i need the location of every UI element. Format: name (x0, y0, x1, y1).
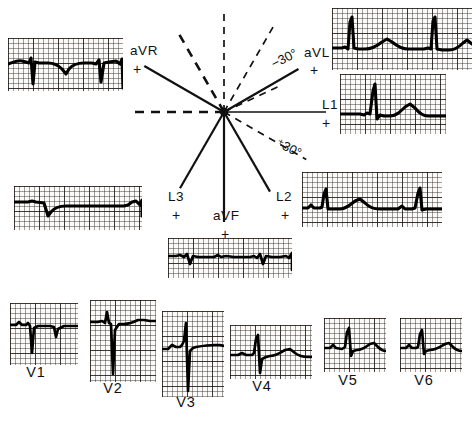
axis-ray-avl-positive (224, 69, 298, 112)
axis-polarity-plus-l1: + (322, 116, 331, 130)
ecg-trace-v2 (90, 300, 156, 382)
ecg-waveform-path-v1 (10, 322, 78, 353)
axis-polarity-plus-avr: + (133, 62, 142, 76)
ecg-trace-l3 (14, 186, 142, 230)
strip-label-v3: V3 (176, 395, 196, 410)
ecg-strip-v2 (90, 300, 156, 382)
axis-ray-lead-3-negative (224, 25, 274, 112)
ecg-trace-avf (168, 238, 292, 278)
axis-ray-lead-2-negative (177, 30, 225, 112)
ecg-strip-l2 (302, 172, 442, 227)
ecg-strip-l1 (340, 74, 446, 134)
ecg-strip-v4 (230, 325, 312, 379)
ecg-strip-avr (8, 38, 123, 91)
ecg-waveform-path-avf (168, 253, 292, 270)
ecg-strip-v1 (10, 303, 78, 365)
axis-label-l1: L1 (322, 98, 338, 112)
ecg-waveform-path-v4 (230, 335, 312, 373)
ecg-trace-avl (332, 8, 472, 70)
ecg-strip-v3 (162, 311, 224, 397)
ecg-waveform-path-l2 (302, 188, 442, 210)
ecg-trace-v3 (162, 311, 224, 397)
axis-polarity-plus-avl: + (310, 63, 319, 77)
strip-label-v2: V2 (103, 381, 123, 396)
axis-label-avr: aVR (130, 44, 158, 58)
axis-angle-label-minus-30-degrees: −30° (269, 46, 299, 70)
strip-label-v6: V6 (414, 373, 434, 388)
axis-label-avf: aVF (213, 209, 240, 223)
ecg-waveform-path-v5 (324, 328, 386, 356)
axis-label-l3: L3 (168, 190, 184, 204)
ecg-trace-v5 (324, 318, 386, 372)
ecg-trace-avr (8, 38, 123, 91)
axis-polarity-plus-avf: + (221, 227, 230, 241)
ecg-strip-l3 (14, 186, 142, 230)
ecg-hexaxial-figure: V1V2V3V4V5V6aVR+aVL+L1+L2+L3+aVF+−30°⁺30… (0, 0, 476, 426)
ecg-trace-v6 (400, 318, 462, 372)
axis-angle-label-plus-30-degrees: ⁺30° (274, 136, 304, 160)
axis-ray-lead-2-positive (224, 112, 270, 192)
ecg-waveform-path-avr (8, 58, 123, 88)
axis-origin-hub (220, 108, 228, 116)
strip-label-v5: V5 (338, 373, 358, 388)
axis-ray-lead-3-positive (180, 112, 224, 188)
ecg-strip-avf (168, 238, 292, 278)
ecg-trace-l2 (302, 172, 442, 227)
ecg-waveform-path-v3 (162, 323, 224, 391)
axis-polarity-plus-l2: + (281, 208, 290, 222)
ecg-waveform-path-l3 (14, 200, 142, 216)
ecg-trace-v1 (10, 303, 78, 365)
ecg-waveform-path-l1 (340, 84, 446, 119)
axis-label-l2: L2 (276, 190, 292, 204)
axis-ray-upper-reference (224, 85, 282, 112)
axis-ray-avr-positive (144, 66, 224, 112)
ecg-trace-v4 (230, 325, 312, 379)
strip-label-v1: V1 (26, 365, 46, 380)
axis-polarity-plus-l3: + (172, 208, 181, 222)
ecg-waveform-path-avl (332, 17, 472, 50)
ecg-waveform-path-v6 (400, 330, 462, 354)
ecg-waveform-path-v2 (90, 312, 156, 374)
ecg-strip-v5 (324, 318, 386, 372)
ecg-strip-avl (332, 8, 472, 70)
strip-label-v4: V4 (252, 379, 272, 394)
ecg-strip-v6 (400, 318, 462, 372)
axis-label-avl: aVL (304, 46, 330, 60)
ecg-trace-l1 (340, 74, 446, 134)
